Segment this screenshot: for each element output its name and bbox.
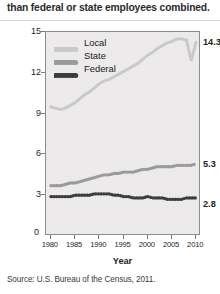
x-axis-tick-mark (98, 235, 99, 239)
header-divider (0, 20, 220, 21)
x-axis-tick-mark (147, 235, 148, 239)
y-axis-tick-label: 9 (19, 109, 41, 117)
x-axis-tick-label: 1990 (85, 240, 111, 249)
y-axis-tick-label: 12 (19, 68, 41, 76)
end-label-state: 5.3 (203, 159, 216, 169)
end-label-local: 14.3 (203, 37, 220, 47)
x-axis-label: Year (45, 256, 200, 266)
legend-label: State (84, 51, 106, 61)
legend-label: Local (84, 38, 106, 48)
legend-item-state: State (54, 50, 116, 61)
x-axis-tick-label: 2000 (134, 240, 160, 249)
legend-item-federal: Federal (54, 63, 116, 74)
legend-item-local: Local (54, 37, 116, 48)
legend-label: Federal (84, 64, 116, 74)
figure: than federal or state employees combined… (0, 0, 220, 294)
series-line-state (51, 164, 196, 186)
legend-swatch-icon (54, 39, 79, 46)
x-axis-tick-mark (50, 235, 51, 239)
x-axis-tick-label: 1980 (37, 240, 63, 249)
x-axis-tick-mark (74, 235, 75, 239)
x-axis-tick-label: 1985 (61, 240, 87, 249)
legend: LocalStateFederal (54, 37, 116, 76)
y-axis-tick-label: 3 (19, 190, 41, 198)
y-axis-zero-label: 0 (34, 227, 39, 237)
x-axis-tick-label: 2010 (182, 240, 208, 249)
plot-area: LocalStateFederal (45, 31, 200, 235)
x-axis-tick-mark (171, 235, 172, 239)
legend-swatch-icon (54, 52, 79, 59)
y-axis-tick-label: 6 (19, 149, 41, 157)
x-axis-tick-label: 1995 (110, 240, 136, 249)
x-axis-tick-label: 2005 (158, 240, 184, 249)
series-line-federal (51, 194, 196, 199)
end-label-federal: 2.8 (203, 199, 216, 209)
x-axis-tick-mark (123, 235, 124, 239)
header-text: than federal or state employees combined… (7, 2, 215, 14)
plot-wrapper: Number of Employees (in millions) 0 1512… (45, 31, 200, 235)
y-axis-tick-label: 15 (19, 27, 41, 35)
legend-swatch-icon (54, 65, 79, 72)
x-axis-tick-mark (195, 235, 196, 239)
source-note: Source: U.S. Bureau of the Census, 2011. (7, 275, 155, 284)
